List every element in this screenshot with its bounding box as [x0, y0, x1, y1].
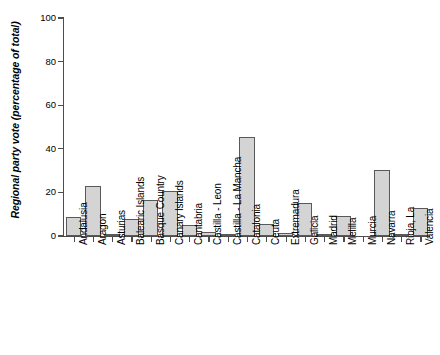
bar-chart-figure: Regional party vote (percentage of total… [0, 0, 440, 355]
x-tick-label: Extremadura [290, 189, 301, 245]
y-tick-label: 40 [45, 144, 56, 154]
x-tick-mark [305, 237, 306, 242]
x-tick-label: Castilla - Leon [212, 183, 223, 245]
x-tick-label: Melilla [347, 218, 358, 245]
x-tick-label: Asturias [116, 210, 127, 245]
y-axis-title: Regional party vote (percentage of total… [6, 4, 24, 236]
x-tick-mark [170, 237, 171, 242]
x-tick-mark [151, 237, 152, 242]
x-tick-label: Cantabria [193, 203, 204, 245]
x-tick-mark [93, 237, 94, 242]
x-tick-label: Ceuta [270, 219, 281, 245]
x-tick-mark [382, 237, 383, 242]
y-tick-mark [58, 61, 63, 62]
x-tick-label: Catalonia [251, 204, 262, 245]
x-tick-label: Canary Islands [174, 180, 185, 245]
x-tick-label: Murcia [367, 216, 378, 245]
x-tick-label: Aragon [97, 214, 108, 245]
x-tick-label: Balearic Islands [135, 177, 146, 245]
y-tick-mark [58, 235, 63, 236]
x-tick-mark [266, 237, 267, 242]
x-tick-mark [247, 237, 248, 242]
x-tick-label: Madrid [328, 215, 339, 245]
plot-area: 020406080100 [64, 18, 430, 236]
x-tick-mark [228, 237, 229, 242]
x-tick-mark [401, 237, 402, 242]
y-tick-mark [58, 17, 63, 18]
x-tick-mark [74, 237, 75, 242]
x-tick-mark [363, 237, 364, 242]
x-tick-mark [286, 237, 287, 242]
y-tick-label: 60 [45, 100, 56, 110]
x-tick-mark [343, 237, 344, 242]
x-tick-label: Navarra [386, 210, 397, 245]
y-tick-mark [58, 192, 63, 193]
x-tick-label: Basque Country [155, 175, 166, 245]
x-tick-mark [420, 237, 421, 242]
y-tick-label: 0 [51, 231, 56, 241]
y-tick-mark [58, 105, 63, 106]
x-tick-mark [189, 237, 190, 242]
x-tick-label: Andalusia [78, 202, 89, 245]
x-tick-mark [112, 237, 113, 242]
y-tick-label: 100 [40, 13, 56, 23]
x-tick-label: Rioja, La [405, 207, 416, 245]
x-tick-label: Valencia [424, 209, 435, 245]
x-tick-mark [131, 237, 132, 242]
y-tick-mark [58, 148, 63, 149]
x-tick-mark [208, 237, 209, 242]
y-tick-label: 20 [45, 188, 56, 198]
x-tick-label: Galicia [309, 215, 320, 245]
y-tick-label: 80 [45, 57, 56, 67]
x-tick-label: Castilla - La Mancha [232, 157, 243, 245]
x-tick-mark [324, 237, 325, 242]
